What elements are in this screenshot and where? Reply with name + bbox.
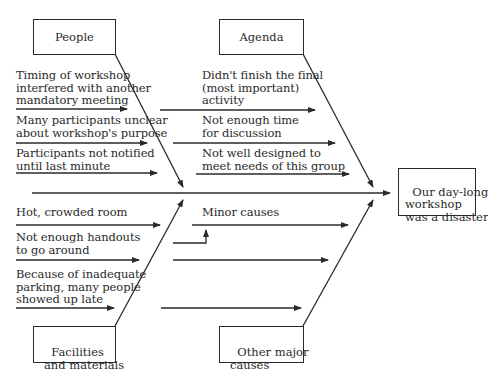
- facilities-cause-2: Not enough handouts to go around: [16, 231, 140, 256]
- sub-cause-arrow: [173, 230, 206, 243]
- facilities-cause-1: Hot, crowded room: [16, 206, 127, 219]
- minor-causes-label: Minor causes: [202, 206, 279, 219]
- people-cause-3: Participants not notified until last min…: [16, 147, 155, 172]
- facilities-cause-3: Because of inadequate parking, many peop…: [16, 268, 146, 306]
- category-label-agenda: Agenda: [239, 31, 283, 44]
- effect-label: Our day-long workshop was a disaster: [405, 185, 488, 224]
- agenda-cause-2: Not enough time for discussion: [202, 114, 299, 139]
- agenda-cause-3: Not well designed to meet needs of this …: [202, 147, 345, 172]
- category-box-facilities: Facilities and materials: [33, 326, 116, 363]
- category-label-facilities: Facilities and materials: [44, 345, 124, 372]
- effect-box: Our day-long workshop was a disaster: [398, 168, 476, 216]
- category-box-agenda: Agenda: [219, 19, 304, 55]
- other-bone-arrow: [303, 200, 373, 326]
- people-cause-1: Timing of workshop interfered with anoth…: [16, 69, 151, 107]
- category-box-other: Other major causes: [219, 326, 304, 363]
- category-label-people: People: [55, 31, 94, 44]
- people-cause-2: Many participants unclear about workshop…: [16, 114, 168, 139]
- agenda-cause-1: Didn't finish the final (most important)…: [202, 69, 323, 107]
- category-box-people: People: [33, 19, 116, 55]
